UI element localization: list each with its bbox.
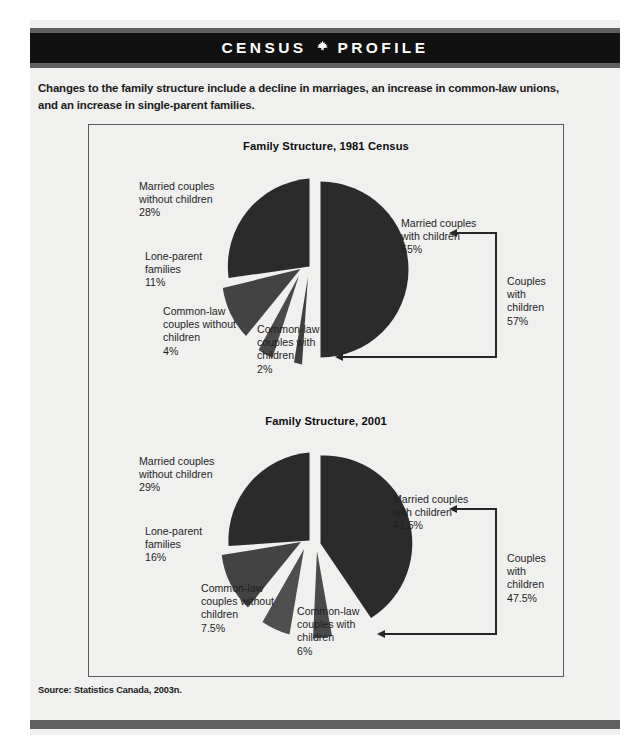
banner-word-census: CENSUS [222, 39, 307, 57]
callout-bracket-2001: Couples with children 47.5% [89, 397, 563, 672]
bracket-top-arm-2001 [457, 508, 497, 510]
bracket-bottom-arm-2001 [385, 633, 497, 635]
bracket-bottom-arrowhead-2001 [377, 630, 385, 638]
bracket-label-1981: Couples with children 57% [507, 275, 546, 328]
charts-frame: Family Structure, 1981 Census Marr [88, 124, 564, 677]
bracket-bottom-arm-1981 [343, 356, 497, 358]
bracket-vertical-line-1981 [495, 233, 497, 357]
banner-title: CENSUS PROFILE [222, 39, 429, 57]
intro-line-2: and an increase in single-parent familie… [38, 97, 578, 114]
intro-paragraph: Changes to the family structure include … [38, 80, 578, 113]
chart-block-1981: Family Structure, 1981 Census Marr [89, 125, 563, 400]
census-profile-page: CENSUS PROFILE Changes to the family str… [30, 20, 620, 735]
banner-word-profile: PROFILE [338, 39, 429, 57]
bracket-top-arm-1981 [457, 232, 497, 234]
census-profile-banner: CENSUS PROFILE [30, 28, 620, 68]
bottom-rule [30, 720, 620, 729]
intro-line-1: Changes to the family structure include … [38, 80, 578, 97]
source-note: Source: Statistics Canada, 2003n. [38, 685, 182, 695]
callout-bracket-1981: Couples with children 57% [89, 125, 563, 400]
bracket-top-arrowhead-1981 [449, 229, 457, 237]
bracket-label-2001: Couples with children 47.5% [507, 552, 546, 605]
bracket-top-arrowhead-2001 [449, 505, 457, 513]
chart-block-2001: Family Structure, 2001 Married cou [89, 397, 563, 672]
bracket-bottom-arrowhead-1981 [335, 353, 343, 361]
bracket-vertical-line-2001 [495, 509, 497, 634]
maple-leaf-icon [316, 40, 329, 55]
